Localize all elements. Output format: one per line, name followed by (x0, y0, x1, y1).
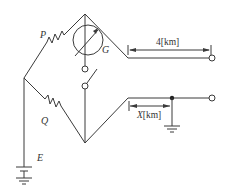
switch (82, 66, 97, 143)
label-x-unit: [km] (143, 110, 161, 120)
ground-icon (16, 178, 32, 184)
label-q: Q (41, 115, 49, 126)
resistor-q (24, 78, 85, 143)
label-x-km: X[km] (136, 110, 161, 120)
label-4km: 4[km] (156, 37, 179, 47)
resistor-p (24, 14, 85, 78)
fault-ground-icon (164, 98, 180, 132)
circuit-diagram: P Q G E 4[km] X[km] (0, 0, 230, 187)
label-g: G (102, 44, 109, 55)
label-p: P (39, 29, 46, 40)
battery (16, 78, 32, 178)
label-e: E (36, 152, 43, 163)
